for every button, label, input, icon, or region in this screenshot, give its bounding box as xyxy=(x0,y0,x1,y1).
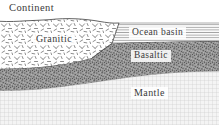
cross-section-figure: Continent Granitic Ocean basin Basaltic … xyxy=(0,0,219,125)
cross-section-drawing xyxy=(0,0,219,125)
label-continent: Continent xyxy=(9,3,54,14)
label-mantle: Mantle xyxy=(131,87,168,99)
label-granitic: Granitic xyxy=(33,33,75,45)
label-basaltic: Basaltic xyxy=(131,50,171,62)
label-ocean-basin: Ocean basin xyxy=(129,27,186,39)
